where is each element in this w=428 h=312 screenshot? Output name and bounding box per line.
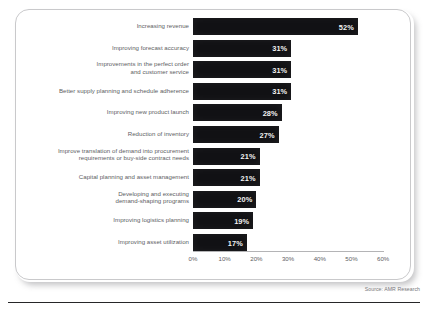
bar: 21% [193,169,260,186]
bar-category-label: Improvements in the perfect orderand cus… [24,60,189,75]
bar: 31% [193,40,291,57]
bar-container: 28% [193,104,282,121]
x-axis-line [193,251,384,252]
bar-row: Reduction of inventory27% [0,124,428,146]
bar: 21% [193,148,260,165]
bar-value-label: 31% [272,87,287,96]
bar: 17% [193,234,247,251]
bar-category-label: Capital planning and asset management [24,173,189,180]
category-label-line: Better supply planning and schedule adhe… [24,87,189,94]
x-axis-tick-label: 60% [370,255,396,262]
bar-row: Better supply planning and schedule adhe… [0,81,428,103]
bar-row: Improving forecast accuracy31% [0,38,428,60]
bar-value-label: 21% [240,152,255,161]
bar-row: Improving new product launch28% [0,102,428,124]
x-axis-tick-label: 10% [212,255,238,262]
bar-value-label: 21% [240,173,255,182]
category-label-line: Improve translation of demand into procu… [24,147,189,155]
bar-row: Improve translation of demand into procu… [0,146,428,168]
bar-container: 20% [193,191,256,208]
bar-container: 52% [193,18,358,35]
x-axis-tick-label: 50% [339,255,365,262]
category-label-line: Improving forecast accuracy [24,44,189,51]
category-label-line: Improvements in the perfect order [24,60,189,68]
bar: 19% [193,212,253,229]
bar-row: Developing and executingdemand-shaping p… [0,189,428,211]
bar: 20% [193,191,256,208]
bar-value-label: 52% [339,22,354,31]
x-axis-tick-label: 40% [307,255,333,262]
category-label-line: Improving asset utilization [24,238,189,245]
bar-category-label: Improving new product launch [24,108,189,115]
bar-value-label: 17% [228,238,243,247]
bar-container: 17% [193,234,247,251]
bar-category-label: Better supply planning and schedule adhe… [24,87,189,94]
bar-row: Improving logistics planning19% [0,210,428,232]
bar-value-label: 31% [272,44,287,53]
category-label-line: Improving new product launch [24,108,189,115]
category-label-line: Reduction of inventory [24,130,189,137]
category-label-line: Improving logistics planning [24,216,189,223]
bar-chart-plot: Increasing revenue52%Improving forecast … [0,0,428,312]
x-axis-tick-label: 20% [243,255,269,262]
bar-row: Capital planning and asset management21% [0,167,428,189]
bar-row: Increasing revenue52% [0,16,428,38]
bar: 28% [193,104,282,121]
bar-category-label: Improving asset utilization [24,238,189,245]
bar-container: 21% [193,169,260,186]
bar-value-label: 31% [272,65,287,74]
bar-category-label: Developing and executingdemand-shaping p… [24,190,189,205]
bar-row: Improvements in the perfect orderand cus… [0,59,428,81]
bar-category-label: Improve translation of demand into procu… [24,147,189,162]
category-label-line: Developing and executing [24,190,189,198]
bar-container: 31% [193,40,291,57]
bar-category-label: Reduction of inventory [24,130,189,137]
bar-category-label: Improving logistics planning [24,216,189,223]
bar-container: 31% [193,61,291,78]
bar: 31% [193,83,291,100]
source-note: Source: AMR Research [365,286,420,292]
category-label-line: and customer service [24,68,189,76]
x-axis-tick-label: 0% [180,255,206,262]
bar-category-label: Increasing revenue [24,22,189,29]
bar-value-label: 28% [263,108,278,117]
x-axis-tick-label: 30% [275,255,301,262]
category-label-line: requirements or buy-side contract needs [24,154,189,162]
bar-value-label: 20% [237,195,252,204]
bar-value-label: 27% [259,130,274,139]
bar-container: 19% [193,212,253,229]
bar: 27% [193,126,279,143]
bar: 52% [193,18,358,35]
bar-container: 21% [193,148,260,165]
bar-value-label: 19% [234,216,249,225]
bottom-divider [8,302,420,303]
bar-container: 27% [193,126,279,143]
bar-category-label: Improving forecast accuracy [24,44,189,51]
bar: 31% [193,61,291,78]
category-label-line: Capital planning and asset management [24,173,189,180]
category-label-line: demand-shaping programs [24,197,189,205]
category-label-line: Increasing revenue [24,22,189,29]
bar-container: 31% [193,83,291,100]
